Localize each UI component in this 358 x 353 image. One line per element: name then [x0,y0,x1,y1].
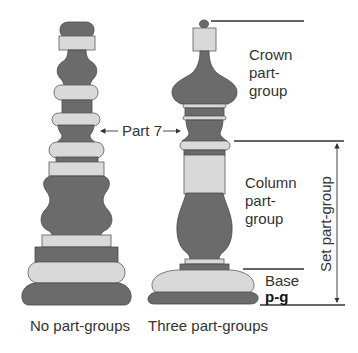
crown-group-label-line2: part- [249,64,280,82]
left-part-plinth [35,247,118,262]
left-part-ring-2 [52,113,100,126]
set-group-label: Set part-group [317,176,335,272]
right-part-crown [172,51,237,104]
right-part-finial [200,20,209,28]
left-part-knob [57,50,97,86]
left-part-shaft [62,100,92,114]
right-part-crown-ring-1 [183,104,226,108]
right-part-column-band [184,150,225,155]
crown-group-label-line1: Crown [249,46,292,64]
left-part-ring-3 [49,142,104,158]
right-part-base-foot [148,292,258,304]
right-chess-piece [148,20,258,304]
crown-group-label-line3: group [249,82,287,100]
part7-label: Part 7 [122,122,162,140]
left-part-7-waist [56,125,96,143]
column-group-label-line2: part- [245,192,276,210]
left-part-ring-1 [54,85,98,100]
left-part-band-mid [49,162,104,176]
right-part-base-cushion [152,270,254,293]
right-part-column-shaft [184,155,225,194]
right-part-column-foot-ring [185,259,224,264]
base-group-label-line2: p-g [265,288,288,306]
left-chess-piece [22,22,131,305]
left-part-cushion [28,262,125,283]
right-part-crown-collar [185,108,224,116]
left-part-body [41,176,112,236]
part-groups-diagram: .d { fill: #6b6b6b; stroke: #4a4a4a; str… [0,0,358,353]
left-part-band-top [59,36,95,50]
left-part-cap [60,22,94,38]
right-part-column-vase [177,193,232,260]
left-part-band-low [42,235,111,247]
column-group-label-line1: Column [245,174,297,192]
right-part-crown-ring-2 [183,116,226,120]
right-part-neck [182,120,227,141]
left-piece-caption: No part-groups [30,317,130,335]
right-part-column-ring [180,141,230,150]
right-piece-caption: Three part-groups [148,317,268,335]
column-group-label-line3: group [245,210,283,228]
right-part-crown-block [193,28,216,51]
left-part-foot [22,283,131,305]
